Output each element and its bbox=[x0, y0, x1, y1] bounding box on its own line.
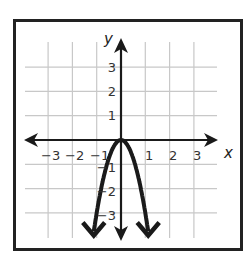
coordinate-plane: −3−2−1123321−1−2−3 y x bbox=[0, 0, 244, 255]
y-tick-label: 1 bbox=[108, 108, 116, 123]
y-tick-label: 3 bbox=[108, 60, 116, 75]
y-tick-label: 2 bbox=[108, 84, 116, 99]
x-tick-label: −2 bbox=[65, 148, 84, 163]
x-axis-label: x bbox=[223, 144, 233, 162]
y-tick-label: −3 bbox=[97, 208, 116, 223]
x-tick-label: 2 bbox=[169, 148, 177, 163]
y-tick-label: −1 bbox=[97, 160, 116, 175]
graph-figure: −3−2−1123321−1−2−3 y x bbox=[0, 0, 244, 255]
x-tick-label: −3 bbox=[41, 148, 60, 163]
y-tick-label: −2 bbox=[97, 184, 116, 199]
x-tick-label: 3 bbox=[193, 148, 201, 163]
y-axis-label: y bbox=[103, 30, 114, 48]
x-tick-label: 1 bbox=[145, 148, 153, 163]
